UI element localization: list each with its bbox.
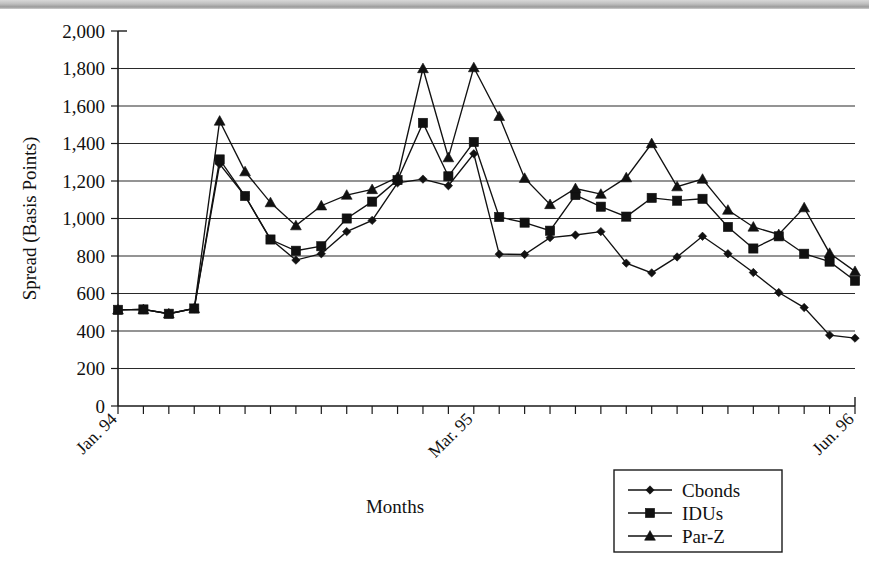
y-tick-label: 1,200 <box>62 171 105 192</box>
y-tick-label: 1,600 <box>62 96 105 117</box>
data-point <box>469 137 478 146</box>
y-tick-label: 200 <box>77 358 106 379</box>
data-point <box>368 197 377 206</box>
data-point <box>647 193 656 202</box>
data-point <box>850 266 861 276</box>
data-point <box>723 222 732 231</box>
data-point <box>520 250 528 258</box>
y-tick-label: 1,000 <box>62 208 105 229</box>
data-series-group <box>113 62 861 342</box>
y-tick-label: 400 <box>77 321 106 342</box>
data-point <box>367 184 378 194</box>
data-point <box>519 173 530 183</box>
data-point <box>494 111 505 121</box>
data-point <box>622 212 631 221</box>
data-point <box>545 226 554 235</box>
y-tick-label: 1,400 <box>62 133 105 154</box>
chart-legend[interactable]: CbondsIDUsPar-Z <box>614 470 782 552</box>
y-tick-label: 1,800 <box>62 58 105 79</box>
data-point <box>444 172 453 181</box>
data-point <box>291 246 300 255</box>
legend-label: IDUs <box>682 503 723 524</box>
data-point <box>596 202 605 211</box>
data-point <box>495 212 504 221</box>
data-point <box>698 194 707 203</box>
series-par-z <box>113 62 861 318</box>
data-point <box>418 118 427 127</box>
y-tick-label: 800 <box>77 246 106 267</box>
data-point <box>368 216 376 224</box>
data-point <box>418 63 429 73</box>
data-point <box>419 175 427 183</box>
x-axis-title: Months <box>366 496 424 517</box>
data-point <box>749 244 758 253</box>
data-point <box>240 191 249 200</box>
data-point <box>215 155 224 164</box>
y-axis-title: Spread (Basis Points) <box>19 137 41 301</box>
data-point <box>316 200 327 210</box>
data-point <box>646 138 657 148</box>
legend-label: Par-Z <box>682 526 725 547</box>
legend-label: Cbonds <box>682 480 740 501</box>
gridlines-group <box>118 69 855 369</box>
x-tick-label: Jun. 96 <box>808 409 858 459</box>
data-point <box>468 62 479 72</box>
data-point <box>850 276 859 285</box>
data-point <box>317 242 326 251</box>
data-point <box>214 116 225 126</box>
data-point <box>520 218 529 227</box>
y-tick-labels-group: 02004006008001,0001,2001,4001,6001,8002,… <box>62 21 105 417</box>
data-point <box>800 249 809 258</box>
data-point <box>266 235 275 244</box>
data-point <box>697 174 708 184</box>
line-chart: 02004006008001,0001,2001,4001,6001,8002,… <box>0 0 869 561</box>
legend-swatch-marker <box>645 508 654 517</box>
data-point <box>571 231 579 239</box>
data-point <box>851 334 859 342</box>
data-point <box>495 250 503 258</box>
data-point <box>240 166 251 176</box>
x-axis-ticks-group <box>118 406 855 414</box>
data-point <box>748 222 759 232</box>
data-point <box>647 269 655 277</box>
figure-container: 02004006008001,0001,2001,4001,6001,8002,… <box>0 0 869 561</box>
x-tick-labels-group: Jan. 94Mar. 95Jun. 96 <box>72 409 858 462</box>
series-line <box>118 68 855 314</box>
data-point <box>825 257 834 266</box>
data-point <box>443 152 454 162</box>
data-point <box>570 183 581 193</box>
data-point <box>824 248 835 258</box>
data-point <box>342 214 351 223</box>
y-tick-label: 2,000 <box>62 21 105 42</box>
y-tick-label: 600 <box>77 283 106 304</box>
data-point <box>673 196 682 205</box>
x-tick-label: Mar. 95 <box>424 409 477 462</box>
data-point <box>799 202 810 212</box>
